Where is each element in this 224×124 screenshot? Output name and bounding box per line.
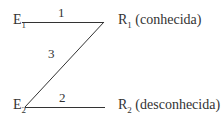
node-label-e1: E1 (13, 13, 26, 30)
node-symbol-r2: R (118, 97, 127, 112)
node-symbol-e1: E (13, 12, 22, 27)
node-subscript-e2: 2 (22, 105, 27, 115)
edge-label-1: 1 (58, 6, 65, 19)
node-symbol-r1: R (118, 12, 127, 27)
node-label-e2: E2 (13, 98, 26, 115)
edge-label-2: 2 (59, 91, 66, 104)
node-subscript-e1: 1 (22, 20, 27, 30)
diagram-canvas: E1 E2 R1 (conhecida) R2 (desconhecida) 1… (0, 0, 224, 124)
node-label-r2: R2 (desconhecida) (118, 98, 220, 115)
node-subscript-r1: 1 (127, 20, 132, 30)
node-subscript-r2: 2 (127, 105, 132, 115)
edge-label-3: 3 (48, 47, 55, 60)
node-label-r1: R1 (conhecida) (118, 13, 201, 30)
node-symbol-e2: E (13, 97, 22, 112)
node-annotation-r1: (conhecida) (135, 12, 201, 27)
node-annotation-r2: (desconhecida) (135, 97, 220, 112)
